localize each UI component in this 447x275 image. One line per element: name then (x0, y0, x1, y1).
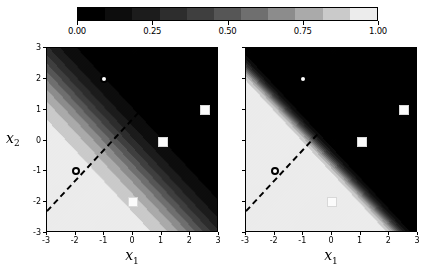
y-axis-tick (43, 170, 46, 171)
x-axis-tick (189, 232, 190, 235)
x-axis-tick-label: -2 (71, 236, 79, 245)
x-axis-tick-label: 0 (129, 236, 134, 245)
colorbar-tick-label: 0.25 (143, 26, 161, 36)
y-axis-tick (43, 78, 46, 79)
y-axis-tick-label: -2 (20, 197, 41, 206)
colorbar-tick (152, 21, 153, 25)
data-point-square (399, 105, 409, 115)
colorbar-tick (378, 21, 379, 25)
data-point-circle (100, 75, 108, 83)
x-axis-tick-label: 2 (187, 236, 192, 245)
y-axis-tick (43, 47, 46, 48)
colorbar-tick-label: 0.75 (294, 26, 312, 36)
y-axis-tick (242, 232, 245, 233)
colorbar-tick-label: 0.50 (218, 26, 236, 36)
x-axis-tick (331, 232, 332, 235)
data-point-circle (299, 75, 307, 83)
panel-right (245, 47, 417, 232)
y-axis-tick (242, 47, 245, 48)
x-axis-tick (388, 232, 389, 235)
x-axis-tick (218, 232, 219, 235)
x-axis-tick (417, 232, 418, 235)
x-axis-tick-label: -3 (42, 236, 50, 245)
panel-left (46, 47, 218, 232)
y-axis-tick-label: 0 (20, 135, 41, 144)
y-axis-tick (242, 109, 245, 110)
x-axis-tick (75, 232, 76, 235)
x-axis-tick (360, 232, 361, 235)
x-axis-tick (274, 232, 275, 235)
data-point-square (357, 137, 367, 147)
x-axis-tick (103, 232, 104, 235)
x-axis-tick (132, 232, 133, 235)
colorbar-gradient (77, 7, 378, 21)
figure-canvas: 0.000.250.500.751.00 x2 -3-2-10123-3-2-1… (0, 0, 447, 275)
x-axis-tick-label: 3 (215, 236, 220, 245)
colorbar-tick (228, 21, 229, 25)
x-axis-tick-label: 1 (357, 236, 362, 245)
data-point-square (158, 137, 168, 147)
y-axis-tick-label: -3 (20, 228, 41, 237)
probability-colorbar: 0.000.250.500.751.00 (77, 7, 378, 21)
decision-boundary-line (246, 48, 398, 211)
x-axis-tick (46, 232, 47, 235)
data-point-circle (271, 167, 279, 175)
y-axis-tick (242, 140, 245, 141)
y-axis-tick (242, 201, 245, 202)
y-axis-tick (43, 109, 46, 110)
y-axis-tick (242, 170, 245, 171)
x-axis-tick-label: -1 (99, 236, 107, 245)
colorbar-tick-label: 0.00 (68, 26, 86, 36)
y-axis-tick-label: 2 (20, 73, 41, 82)
y-axis-tick (43, 140, 46, 141)
x-axis-tick-label: -1 (298, 236, 306, 245)
colorbar-tick (303, 21, 304, 25)
colorbar-tick (77, 21, 78, 25)
x-axis-label-left: x1 (125, 247, 139, 266)
x-axis-tick-label: 2 (386, 236, 391, 245)
y-axis-tick-label: -1 (20, 166, 41, 175)
data-point-square (327, 197, 337, 207)
y-axis-tick-label: 3 (20, 43, 41, 52)
x-axis-tick (302, 232, 303, 235)
y-axis-tick (242, 78, 245, 79)
x-axis-tick-label: 0 (328, 236, 333, 245)
data-point-circle (72, 167, 80, 175)
y-axis-label-left: x2 (6, 130, 20, 149)
data-point-square (200, 105, 210, 115)
x-axis-tick-label: -3 (241, 236, 249, 245)
y-axis-tick (43, 232, 46, 233)
decision-boundary-line (47, 48, 199, 211)
colorbar-tick-label: 1.00 (369, 26, 387, 36)
x-axis-tick-label: 3 (414, 236, 419, 245)
x-axis-label-right: x1 (324, 247, 338, 266)
x-axis-tick-label: -2 (270, 236, 278, 245)
y-axis-tick-label: 1 (20, 104, 41, 113)
x-axis-tick-label: 1 (158, 236, 163, 245)
x-axis-tick (245, 232, 246, 235)
y-axis-tick (43, 201, 46, 202)
data-point-square (128, 197, 138, 207)
x-axis-tick (161, 232, 162, 235)
